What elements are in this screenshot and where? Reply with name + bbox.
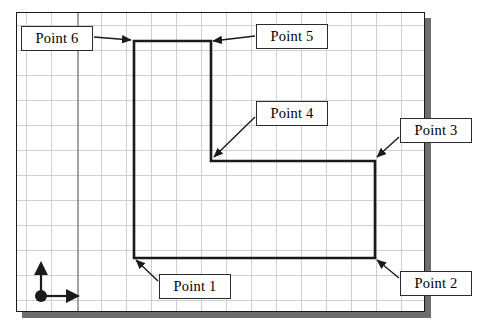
callout-point-6-label: Point 6 [36,30,79,47]
callout-point-3-label: Point 3 [415,122,458,139]
arrow-point-6 [94,37,131,40]
callout-point-5[interactable]: Point 5 [256,24,328,49]
callout-point-1-label: Point 1 [174,278,217,295]
arrow-point-4 [214,117,255,157]
arrow-point-1 [136,260,158,281]
callout-point-5-label: Point 5 [271,28,314,45]
callout-point-2-label: Point 2 [415,275,458,292]
callout-point-6[interactable]: Point 6 [21,26,93,51]
callout-point-2[interactable]: Point 2 [400,271,472,296]
arrow-point-5 [213,36,255,41]
arrow-point-3 [377,137,399,157]
callout-point-3[interactable]: Point 3 [400,118,472,143]
callout-point-1[interactable]: Point 1 [159,274,231,299]
arrow-point-2 [377,260,399,278]
callout-point-4-label: Point 4 [271,105,314,122]
callout-point-4[interactable]: Point 4 [256,101,328,126]
diagram-canvas: Point 6 Point 5 Point 4 Point 3 Point 1 … [0,0,480,333]
